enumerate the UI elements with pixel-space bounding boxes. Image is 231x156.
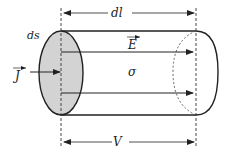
diagram-svg: dl V J ds E σ (0, 0, 231, 156)
voltage-dimension: V (64, 135, 194, 149)
right-face-hidden-edge (173, 31, 196, 115)
voltage-label: V (113, 135, 123, 149)
length-label: dl (111, 6, 123, 20)
area-label: ds (27, 29, 40, 42)
conductor-diagram: dl V J ds E σ (0, 0, 231, 156)
length-dimension: dl (64, 6, 194, 20)
current-density-label: J (12, 69, 21, 83)
field-label: E (127, 38, 137, 52)
conductivity-label: σ (128, 65, 137, 79)
field-label-group: E (127, 37, 140, 52)
cylinder-body (61, 31, 218, 115)
